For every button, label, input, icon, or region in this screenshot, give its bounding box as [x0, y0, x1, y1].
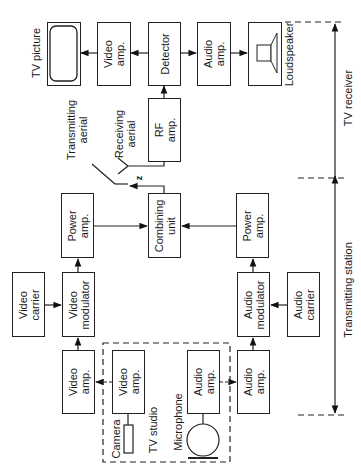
- wave-symbol: z: [133, 173, 145, 183]
- audio-modulator-label: Audiomodulator: [242, 280, 266, 329]
- audio-modulator-block: Audiomodulator: [237, 272, 270, 337]
- audio-carrier-label: Audiocarrier: [292, 289, 316, 320]
- video-modulator-label: Videomodulator: [67, 280, 91, 329]
- video-power-amp-label: Poweramp.: [66, 210, 90, 241]
- combining-unit-label: Combiningunit: [153, 199, 177, 252]
- transmitting-station-section-label: Transmitting station: [342, 235, 354, 345]
- detector-label: Detector: [159, 33, 171, 75]
- combining-unit-block: Combiningunit: [148, 193, 181, 258]
- video-modulator-block: Videomodulator: [62, 272, 95, 337]
- audio-power-amp-label: Poweramp.: [241, 210, 265, 241]
- studio-video-amp-block: Videoamp.: [112, 350, 145, 414]
- receiving-aerial-label: Receivingaerial: [113, 108, 137, 160]
- studio-audio-amp-label: Audioamp.: [192, 368, 216, 396]
- loudspeaker-block: [248, 22, 282, 86]
- rx-audio-amp-block: Audioamp.: [197, 22, 231, 86]
- microphone-label: Microphone: [172, 382, 184, 462]
- tv-picture-block: [47, 22, 81, 86]
- rf-amp-block: RFamp.: [148, 98, 181, 162]
- camera-label: Camera: [110, 416, 122, 462]
- studio-video-amp-label: Videoamp.: [117, 368, 141, 396]
- audio-carrier-block: Audiocarrier: [287, 272, 320, 337]
- audio-power-amp-block: Poweramp.: [236, 193, 269, 258]
- tv-studio-label: TV studio: [147, 398, 159, 462]
- detector-block: Detector: [148, 22, 181, 86]
- video-power-amp-block: Poweramp.: [61, 193, 94, 258]
- tx-audio-amp-label: Audioamp.: [242, 368, 266, 396]
- video-carrier-label: Videocarrier: [17, 289, 41, 320]
- studio-audio-amp-block: Audioamp.: [187, 350, 220, 414]
- tv-picture-label: TV picture: [30, 21, 42, 85]
- tx-video-amp-label: Videoamp.: [67, 368, 91, 396]
- rx-audio-amp-label: Audioamp.: [202, 40, 226, 68]
- tv-receiver-section-label: TV receiver: [342, 48, 354, 148]
- loudspeaker-label: Loudspeaker: [283, 17, 295, 92]
- transmitting-aerial-label: Transmittingaerial: [65, 100, 89, 160]
- tx-video-amp-block: Videoamp.: [62, 350, 95, 414]
- rx-video-amp-block: Videoamp.: [97, 22, 131, 86]
- tx-audio-amp-block: Audioamp.: [237, 350, 270, 414]
- rx-video-amp-label: Videoamp.: [102, 40, 126, 68]
- video-carrier-block: Videocarrier: [12, 272, 45, 337]
- rf-amp-label: RFamp.: [153, 118, 177, 142]
